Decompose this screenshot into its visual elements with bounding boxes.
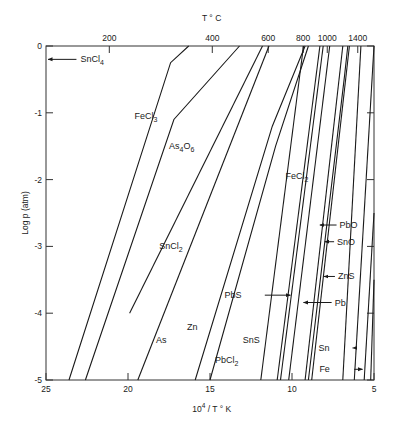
series-label: PbS	[225, 290, 242, 300]
series-line	[130, 46, 263, 313]
series-label-sub: 3	[154, 116, 158, 123]
series-label: As4O6	[169, 141, 194, 153]
series-line	[195, 46, 305, 380]
x-tick-label: 20	[123, 384, 133, 394]
top-axis-title: T ° C	[202, 13, 221, 23]
series-label: SnCl2	[159, 241, 183, 253]
series-label-main: Zn	[187, 322, 198, 332]
series-label-sub: 2	[234, 360, 238, 367]
series-line	[308, 46, 347, 380]
series-label-main: SnCl	[80, 54, 100, 64]
series-label-sub2: 6	[190, 146, 194, 153]
series-fecl2: FeCl2	[277, 46, 320, 380]
series-line	[69, 46, 189, 380]
series-label-main: Pb	[335, 298, 346, 308]
series-line	[281, 46, 324, 380]
top-tick-label: 600	[261, 33, 275, 43]
y-tick-label: -1	[34, 108, 42, 118]
series-pbcl2: PbCl2	[210, 46, 308, 380]
series-label-main2: O	[183, 141, 190, 151]
series-line	[277, 46, 320, 380]
series-line	[210, 46, 308, 380]
series-label-main: SnCl	[159, 241, 179, 251]
x-tick-label: 10	[287, 384, 297, 394]
series-fecl3: FeCl3	[69, 46, 189, 380]
top-tick-label: 1400	[348, 33, 367, 43]
series-label-main: PbO	[340, 220, 358, 230]
series-label-main: PbCl	[215, 355, 235, 365]
series-line	[364, 213, 374, 380]
series-label: SnS	[243, 335, 260, 345]
x-tick-label: 15	[205, 384, 215, 394]
y-tick-label: 0	[37, 41, 42, 51]
series-label: Fe	[319, 364, 330, 374]
series-label-sub: 2	[179, 246, 183, 253]
series-label-main: FeCl	[135, 111, 154, 121]
series-label: Sn	[319, 343, 330, 353]
y-tick-label: -2	[34, 175, 42, 185]
series-label-main: PbS	[225, 290, 242, 300]
series-sncl4: SnCl4	[48, 54, 104, 66]
x-axis-title-base: 10	[192, 404, 202, 414]
series-pbs: PbS	[225, 46, 324, 380]
series-label: SnCl4	[80, 54, 104, 66]
series-label: ZnS	[338, 271, 355, 281]
top-tick-label: 1000	[318, 33, 337, 43]
series-line	[261, 46, 304, 380]
series-zns: ZnS	[312, 46, 355, 380]
series-as4o6: As4O6	[85, 46, 239, 380]
series-label: SnO	[337, 237, 355, 247]
series-line	[85, 46, 239, 380]
series-label: Pb	[335, 298, 346, 308]
series-label: PbO	[340, 220, 358, 230]
top-tick-label: 800	[296, 33, 310, 43]
series-label-main: ZnS	[338, 271, 355, 281]
series-label-sub: 4	[100, 59, 104, 66]
series-sncl2: SnCl2	[130, 46, 263, 313]
series-label-main: Fe	[319, 364, 330, 374]
series-label-main: As	[169, 141, 180, 151]
series-sn: Sn	[319, 46, 361, 380]
vapor-pressure-chart: 0-1-2-3-4-525201510520040060080010001400…	[0, 0, 396, 422]
y-tick-label: -4	[34, 308, 42, 318]
y-tick-label: -3	[34, 241, 42, 251]
series-line	[354, 46, 374, 380]
series-label-main: Sn	[319, 343, 330, 353]
x-axis-title-rest: / T ° K	[205, 404, 231, 414]
series-label-main: SnS	[243, 335, 260, 345]
series-label-main: SnO	[337, 237, 355, 247]
x-axis-title: 104 / T ° K	[192, 402, 231, 414]
series-label: Zn	[187, 322, 198, 332]
series-label: PbCl2	[215, 355, 239, 367]
series-fe: Fe	[319, 46, 374, 380]
series-label: FeCl2	[285, 171, 308, 183]
x-tick-label: 5	[372, 384, 377, 394]
series-sno: SnO	[308, 46, 355, 380]
x-tick-label: 25	[41, 384, 51, 394]
top-tick-label: 200	[102, 33, 116, 43]
series-label: As	[156, 335, 167, 345]
series-unlabeled-1	[364, 213, 374, 380]
series-label-main: As	[156, 335, 167, 345]
series-label-main: FeCl	[285, 171, 304, 181]
series-line	[138, 46, 269, 380]
top-tick-label: 400	[205, 33, 219, 43]
series-line	[343, 46, 361, 380]
series-as: As	[138, 46, 269, 380]
y-axis-title: Log p (atm)	[20, 191, 30, 235]
series-line	[312, 46, 350, 380]
